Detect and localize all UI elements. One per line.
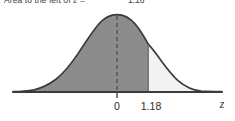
shaded-area-region xyxy=(13,15,148,92)
normal-curve-svg: 0 1.18 z xyxy=(0,0,235,121)
figure-caption-value: 1.18 xyxy=(128,0,145,5)
axis-variable-label: z xyxy=(219,98,225,110)
tick-label-zero: 0 xyxy=(114,100,120,112)
normal-distribution-figure: Area to the left of z = 1.18 0 1.18 z xyxy=(0,0,235,121)
tick-label-z-value: 1.18 xyxy=(141,100,162,112)
figure-caption-prefix: Area to the left of z = xyxy=(4,0,85,5)
